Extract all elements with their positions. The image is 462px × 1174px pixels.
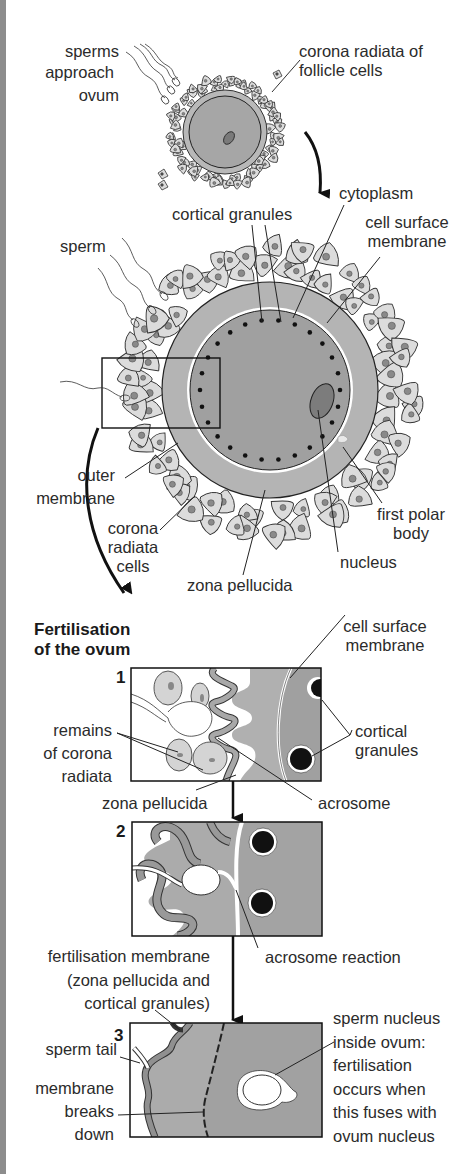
label-cytoplasm: cytoplasm [339, 184, 413, 203]
label-step1-cell-surface-membrane: cell surface membrane [330, 617, 440, 655]
label-acrosome-reaction: acrosome reaction [265, 948, 401, 967]
label-s3-n-line-2: inside ovum: [333, 1033, 426, 1051]
label-zona-pellucida: zona pellucida [187, 576, 293, 595]
label-first-polar-body: first polar body [371, 505, 451, 543]
label-corona-cells-line-1: corona [108, 519, 158, 537]
label-sperm-tail: sperm tail [45, 1040, 117, 1059]
fertilisation-step-2 [132, 822, 322, 948]
label-corona-cells-line-2: radiata [108, 538, 158, 556]
label-radiata: radiata [62, 767, 112, 786]
label-approach: approach [45, 63, 114, 82]
label-s3-n-line-3: fertilisation [333, 1056, 412, 1074]
label-s1-cg-line-2: granules [355, 741, 418, 759]
label-corona-line-2: follicle cells [299, 61, 382, 79]
step-number-2: 2 [116, 822, 125, 842]
label-outer: outer [77, 466, 115, 485]
label-corona-radiata-follicle: corona radiata of follicle cells [299, 42, 423, 80]
label-down: down [75, 1125, 114, 1144]
label-of-corona: of corona [43, 744, 112, 763]
title-line-1: Fertilisation [34, 620, 130, 639]
label-cortical-granules: cortical granules [172, 205, 292, 224]
fertilisation-step-1 [117, 615, 352, 800]
arrow-stage-1-to-2 [305, 132, 320, 193]
label-cell-surface-line-1: cell surface [365, 213, 448, 231]
fertilisation-step-3 [118, 1010, 334, 1137]
label-polar-line-1: first polar [377, 505, 445, 523]
label-cell-surface-line-2: membrane [368, 232, 447, 250]
label-outer-membrane: membrane [36, 489, 115, 508]
label-fert-membrane-1: fertilisation membrane [48, 947, 210, 966]
label-s1-cg-line-1: cortical [355, 722, 407, 740]
label-breaks: breaks [64, 1102, 114, 1121]
label-s3-n-line-5: this fuses with [333, 1103, 437, 1121]
label-acrosome: acrosome [318, 794, 390, 813]
label-polar-line-2: body [393, 524, 429, 542]
label-s3-n-line-4: occurs when [333, 1080, 426, 1098]
label-sperm: sperm [60, 237, 106, 256]
label-fert-membrane-3: cortical granules) [84, 994, 210, 1013]
step-number-1: 1 [116, 668, 125, 688]
label-s3-n-line-6: ovum nucleus [333, 1127, 435, 1145]
label-membrane: membrane [35, 1079, 114, 1098]
label-remains: remains [53, 721, 112, 740]
label-corona-cells-line-3: cells [116, 557, 149, 575]
label-step1-cortical-granules: cortical granules [355, 722, 418, 760]
label-sperms: sperms [65, 42, 119, 61]
label-step1-zona-pellucida: zona pellucida [102, 794, 208, 813]
label-corona-line-1: corona radiata of [299, 42, 423, 60]
label-ovum: ovum [79, 86, 119, 105]
label-fert-membrane-2: (zona pellucida and [67, 971, 210, 990]
label-corona-radiata-cells: corona radiata cells [98, 519, 168, 576]
small-ovum [126, 44, 300, 190]
label-s3-n-line-1: sperm nucleus [333, 1009, 440, 1027]
label-sperm-nucleus-inside-ovum: sperm nucleus inside ovum: fertilisation… [333, 1007, 440, 1148]
section-title-fertilisation: Fertilisation of the ovum [34, 620, 130, 660]
label-nucleus: nucleus [340, 553, 397, 572]
label-s1-cs-line-2: membrane [346, 636, 425, 654]
title-line-2: of the ovum [34, 640, 130, 659]
label-s1-cs-line-1: cell surface [343, 617, 426, 635]
label-cell-surface-membrane: cell surface membrane [357, 213, 457, 251]
